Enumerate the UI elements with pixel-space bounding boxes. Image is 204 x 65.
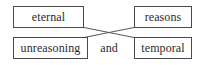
node-eternal-label: eternal: [32, 11, 65, 23]
node-reasons-label: reasons: [145, 11, 182, 23]
node-unreasoning-label: unreasoning: [21, 42, 81, 54]
node-eternal[interactable]: eternal: [13, 6, 84, 28]
conjunction-label: and: [92, 41, 126, 55]
node-reasons[interactable]: reasons: [134, 6, 192, 28]
conjunction-label-text: and: [100, 42, 117, 54]
node-temporal[interactable]: temporal: [134, 37, 192, 59]
diagram-canvas: eternal reasons unreasoning temporal and: [0, 0, 204, 65]
node-unreasoning[interactable]: unreasoning: [13, 37, 88, 59]
node-temporal-label: temporal: [141, 42, 184, 54]
